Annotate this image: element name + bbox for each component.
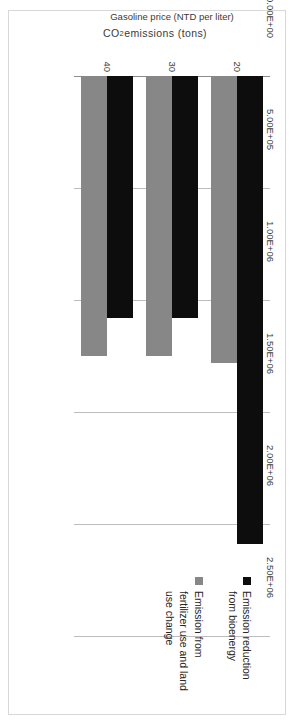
bar[interactable] (172, 76, 198, 318)
legend-label: Emission reduction from bioenergy (226, 591, 254, 697)
bar-group: 20 (205, 76, 270, 636)
bar[interactable] (237, 76, 263, 544)
category-tick-label: 20 (232, 46, 243, 72)
bar-group: 30 (139, 76, 204, 636)
bar[interactable] (146, 76, 172, 356)
legend-swatch-icon (195, 577, 203, 585)
chart-legend: Emission reduction from bioenergyEmissio… (163, 577, 254, 697)
bar[interactable] (211, 76, 237, 363)
rotated-chart-wrapper: CO2 emissions (tons) 0.00E+005.00E+051.0… (0, 0, 294, 727)
bar[interactable] (107, 76, 133, 318)
legend-item[interactable]: Emission from fertilizer use and land us… (163, 577, 206, 697)
bar-group: 40 (74, 76, 139, 636)
category-axis-title: Gasoline price (NTD per liter) (74, 8, 270, 24)
value-axis-title-suffix: emissions (tons) (124, 27, 207, 39)
value-axis-title-prefix: CO (103, 27, 120, 39)
chart-canvas: CO2 emissions (tons) 0.00E+005.00E+051.0… (0, 0, 294, 727)
bar[interactable] (81, 76, 107, 356)
category-tick-label: 30 (167, 46, 178, 72)
chart-plot-area: 203040 (74, 76, 270, 636)
category-tick-label: 40 (101, 46, 112, 72)
legend-swatch-icon (243, 577, 251, 585)
legend-label: Emission from fertilizer use and land us… (163, 591, 206, 697)
value-axis-ticks: 0.00E+005.00E+051.00E+061.50E+062.00E+06… (74, 40, 270, 42)
legend-item[interactable]: Emission reduction from bioenergy (226, 577, 254, 697)
